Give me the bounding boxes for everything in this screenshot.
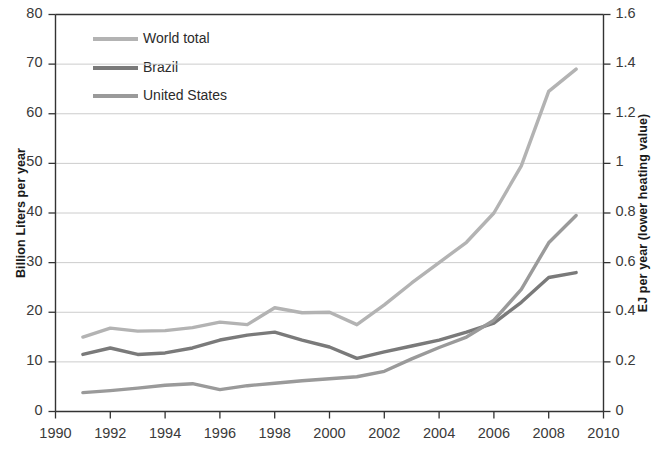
- series-line-world-total: [83, 69, 576, 337]
- series-line-united-states: [83, 215, 576, 392]
- plot-area: [0, 0, 659, 449]
- series-line-brazil: [83, 273, 576, 359]
- data-series: [83, 69, 576, 393]
- gridlines: [56, 64, 604, 362]
- chart-container: Billion Liters per year EJ per year (low…: [0, 0, 659, 449]
- legend-swatches: [93, 39, 138, 96]
- axis-ticks: [49, 15, 611, 419]
